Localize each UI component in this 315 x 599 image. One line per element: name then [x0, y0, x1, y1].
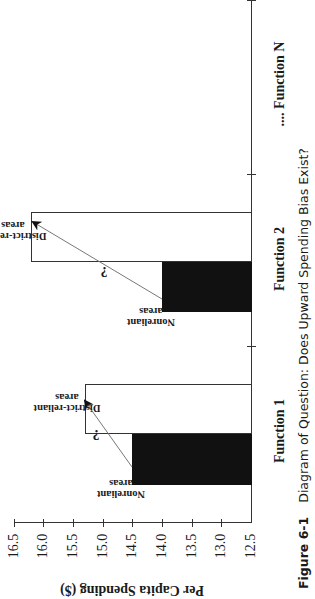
- category-label-function2: Function 2: [272, 209, 288, 309]
- label-nonreliant-f2: Nonreliant areas: [127, 306, 175, 328]
- chart-figure: 16.5 16.0 15.5 15.0 14.5 14.0 13.5 13.0 …: [0, 0, 315, 599]
- label-text: Nonreliant: [97, 489, 145, 500]
- label-text: Nonreliant: [127, 317, 175, 328]
- label-district-reliant-f1: District-reliant areas: [34, 392, 101, 414]
- label-text: District-reliant: [0, 231, 46, 242]
- category-label-functionN: .... Function N: [272, 24, 288, 144]
- label-text: areas: [97, 478, 145, 489]
- figure-caption: Figure 6-1Diagram of Question: Does Upwa…: [296, 148, 311, 589]
- label-text: areas: [127, 306, 175, 317]
- label-text: areas: [0, 220, 46, 231]
- figure-title: Diagram of Question: Does Upward Spendin…: [296, 148, 311, 503]
- label-text: District-reliant: [34, 403, 101, 414]
- figure-number: Figure 6-1: [296, 517, 311, 589]
- label-district-reliant-f2: District-reliant areas: [0, 220, 46, 242]
- question-mark-f1: ?: [93, 426, 100, 442]
- label-nonreliant-f1: Nonreliant areas: [97, 478, 145, 500]
- label-text: areas: [34, 392, 101, 403]
- category-label-function1: Function 1: [272, 381, 288, 481]
- question-mark-f2: ?: [101, 263, 108, 279]
- arrow-icon: [0, 0, 315, 599]
